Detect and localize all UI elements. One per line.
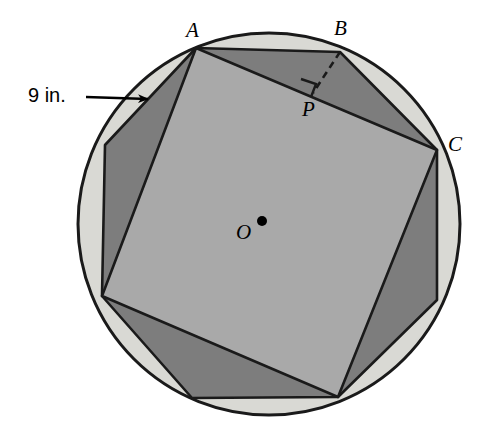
label-point-p: P xyxy=(302,99,315,120)
center-point-dot xyxy=(257,216,267,226)
label-point-b: B xyxy=(334,18,347,39)
label-dimension-9-in: 9 in. xyxy=(28,85,66,105)
geometry-canvas xyxy=(0,0,477,436)
label-point-o: O xyxy=(236,222,251,243)
label-point-c: C xyxy=(448,134,462,155)
label-point-a: A xyxy=(186,20,199,41)
geometry-figure: A B C O P 9 in. xyxy=(0,0,477,436)
